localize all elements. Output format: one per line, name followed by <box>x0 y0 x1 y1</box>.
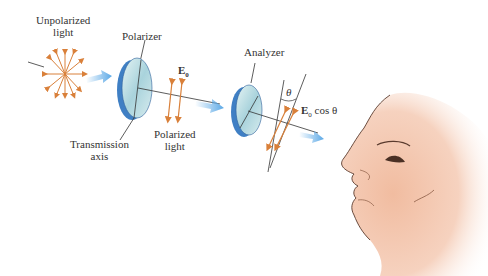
transmission-axis-label: Transmission axis <box>70 138 129 162</box>
polarized-light-label: Polarized light <box>154 128 196 152</box>
beam-arrow-2 <box>195 99 224 113</box>
polarizer-label: Polarizer <box>122 30 162 42</box>
polarizer-disk <box>117 40 220 140</box>
beam-arrow-3 <box>299 131 324 143</box>
unpolarized-light-label: Unpolarized light <box>36 14 90 38</box>
polarized-light-arrows <box>168 82 182 120</box>
e0-label: E0 <box>178 64 189 81</box>
beam-arrow-1 <box>86 70 112 83</box>
e0-cos-theta-label: E0 cos θ <box>301 104 337 121</box>
observer-face <box>342 93 488 276</box>
polarization-diagram: Unpolarized light Polarizer Transmission… <box>0 0 488 276</box>
theta-label: θ <box>286 86 291 98</box>
unpolarized-light-icon <box>28 52 85 96</box>
analyzer-label: Analyzer <box>244 46 284 58</box>
